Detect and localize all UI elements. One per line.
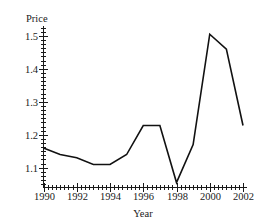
x-tick-label-2000: 2000 [200, 191, 221, 202]
x-tick-label-1990: 1990 [34, 191, 55, 202]
y-tick-label-1-4: 1.4 [25, 64, 39, 75]
y-tick-label-1-3: 1.3 [25, 97, 38, 108]
y-tick-label-1-5: 1.5 [25, 31, 38, 42]
y-tick-label-1-1: 1.1 [25, 163, 38, 174]
x-tick-label-1998: 1998 [167, 191, 188, 202]
x-axis-title: Year [133, 208, 153, 219]
y-axis-title: Price [26, 13, 48, 24]
x-tick-label-1994: 1994 [100, 191, 122, 202]
x-tick-label-1996: 1996 [133, 191, 154, 202]
x-tick-label-1992: 1992 [67, 191, 88, 202]
price-year-line-chart: Price 1.5 1.4 1.3 1.2 1.1 1990 1992 1994… [0, 0, 263, 224]
x-tick-label-2002: 2002 [233, 191, 254, 202]
chart-plot-svg: Price 1.5 1.4 1.3 1.2 1.1 1990 1992 1994… [0, 0, 263, 224]
y-tick-label-1-2: 1.2 [25, 130, 38, 141]
price-series-line [44, 34, 244, 182]
